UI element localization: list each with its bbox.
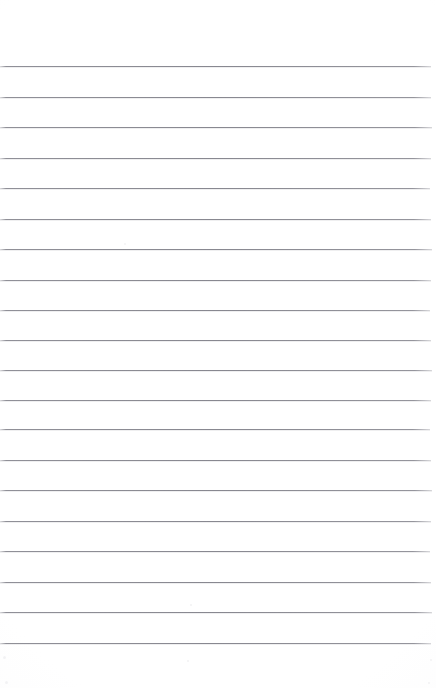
writing-area[interactable] [0,66,436,644]
scanned-page [0,0,436,688]
